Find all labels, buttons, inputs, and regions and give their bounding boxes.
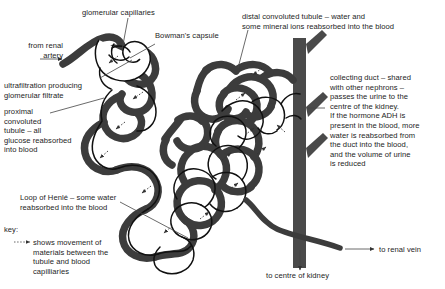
label-loop-of-henle: Loop of Henlé – some water reabsorbed in… bbox=[20, 193, 116, 212]
label-collecting-duct: collecting duct – shared with other neph… bbox=[330, 73, 420, 169]
label-bowmans-capsule: Bowman's capsule bbox=[155, 31, 219, 41]
label-to-renal-vein: to renal vein bbox=[379, 245, 421, 255]
key-heading: key: bbox=[4, 225, 18, 235]
label-ultrafiltration: ultrafiltration producing glomerular fil… bbox=[4, 81, 82, 100]
label-from-renal-artery: from renal artery bbox=[8, 41, 63, 60]
nephron-diagram: glomerular capillaries Bowman's capsule … bbox=[0, 0, 445, 289]
label-distal-convoluted-tubule: distal convoluted tubule – water and som… bbox=[242, 12, 394, 31]
label-to-centre-of-kidney: to centre of kidney bbox=[266, 271, 329, 281]
key-entry-text: shows movement of materials between the … bbox=[33, 238, 108, 276]
label-proximal-convoluted-tubule: proximal convoluted tubule – all glucose… bbox=[4, 107, 72, 155]
label-glomerular-capillaries: glomerular capillaries bbox=[82, 8, 155, 18]
